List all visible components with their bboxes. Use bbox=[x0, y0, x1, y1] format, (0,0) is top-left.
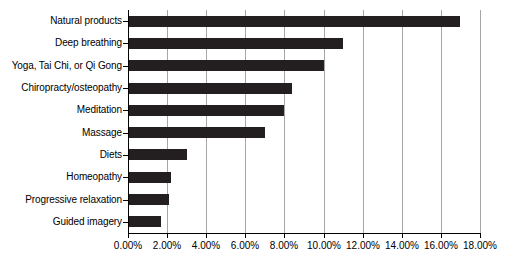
y-axis-tick bbox=[123, 110, 128, 111]
x-axis-tick-label: 6.00% bbox=[231, 240, 259, 252]
category-label: Meditation bbox=[0, 104, 122, 115]
y-axis-line bbox=[128, 10, 129, 233]
y-axis-tick bbox=[123, 200, 128, 201]
x-axis-tick-label: 10.00% bbox=[307, 240, 341, 252]
y-axis-tick bbox=[123, 88, 128, 89]
category-label: Diets bbox=[0, 149, 122, 160]
bar bbox=[128, 194, 169, 205]
gridline bbox=[480, 10, 481, 233]
x-axis-tick-label: 14.00% bbox=[385, 240, 419, 252]
y-axis-tick bbox=[123, 66, 128, 67]
x-axis-tick bbox=[284, 234, 285, 238]
gridline bbox=[402, 10, 403, 233]
x-axis-tick bbox=[402, 234, 403, 238]
y-axis-tick bbox=[123, 222, 128, 223]
x-axis-tick-label: 18.00% bbox=[463, 240, 497, 252]
bar bbox=[128, 216, 161, 227]
x-axis-tick bbox=[206, 234, 207, 238]
x-axis-tick-label: 0.00% bbox=[114, 240, 142, 252]
category-label: Natural products bbox=[0, 15, 122, 26]
x-axis-tick bbox=[480, 234, 481, 238]
category-label: Chiropracty/osteopathy bbox=[0, 82, 122, 93]
bar bbox=[128, 127, 265, 138]
bar-chart: Natural productsDeep breathingYoga, Tai … bbox=[0, 0, 506, 259]
category-label: Deep breathing bbox=[0, 37, 122, 48]
bar bbox=[128, 38, 343, 49]
gridline bbox=[441, 10, 442, 233]
x-axis-tick-label: 2.00% bbox=[153, 240, 181, 252]
bar bbox=[128, 83, 292, 94]
x-axis-tick-label: 4.00% bbox=[192, 240, 220, 252]
x-axis-tick bbox=[441, 234, 442, 238]
x-axis-tick-label: 12.00% bbox=[346, 240, 380, 252]
x-axis-tick-label: 8.00% bbox=[270, 240, 298, 252]
x-axis-tick bbox=[324, 234, 325, 238]
y-axis-tick bbox=[123, 155, 128, 156]
category-axis-labels: Natural productsDeep breathingYoga, Tai … bbox=[0, 10, 122, 233]
bar bbox=[128, 105, 284, 116]
x-axis-tick bbox=[128, 234, 129, 238]
y-axis-tick bbox=[123, 177, 128, 178]
x-axis-tick bbox=[245, 234, 246, 238]
x-axis-tick-label: 16.00% bbox=[424, 240, 458, 252]
bar bbox=[128, 60, 324, 71]
y-axis-tick bbox=[123, 21, 128, 22]
category-label: Homeopathy bbox=[0, 171, 122, 182]
category-label: Guided imagery bbox=[0, 216, 122, 227]
y-axis-tick bbox=[123, 133, 128, 134]
x-axis-tick bbox=[363, 234, 364, 238]
y-axis-tick bbox=[123, 43, 128, 44]
bar bbox=[128, 172, 171, 183]
x-axis-line bbox=[128, 233, 481, 234]
gridline bbox=[363, 10, 364, 233]
category-label: Progressive relaxation bbox=[0, 194, 122, 205]
category-label: Yoga, Tai Chi, or Qi Gong bbox=[0, 60, 122, 71]
x-axis-tick bbox=[167, 234, 168, 238]
plot-area bbox=[128, 10, 480, 233]
bar bbox=[128, 16, 460, 27]
category-label: Massage bbox=[0, 127, 122, 138]
bar bbox=[128, 149, 187, 160]
